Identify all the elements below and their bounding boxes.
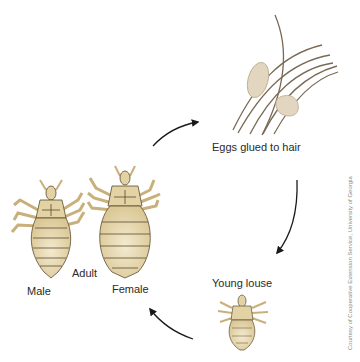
egg-icon: [244, 60, 273, 100]
arrow-young-to-adult: [150, 309, 193, 339]
life-cycle-artwork: [0, 0, 360, 362]
arrow-adult-to-eggs: [153, 122, 198, 146]
label-female: Female: [112, 283, 149, 295]
young-louse-illustration: [218, 295, 268, 350]
male-louse-illustration: [12, 180, 84, 278]
stage-label-eggs: Eggs glued to hair: [212, 141, 301, 153]
egg-icon: [276, 95, 298, 116]
arrow-eggs-to-young: [277, 180, 297, 253]
female-louse-illustration: [88, 166, 160, 278]
stage-label-young-louse: Young louse: [212, 277, 272, 289]
label-male: Male: [27, 285, 51, 297]
image-credit: Courtesy of Cooperative Extension Servic…: [347, 176, 353, 350]
stage-label-adult: Adult: [72, 267, 97, 279]
hair-with-eggs-illustration: [233, 15, 338, 135]
